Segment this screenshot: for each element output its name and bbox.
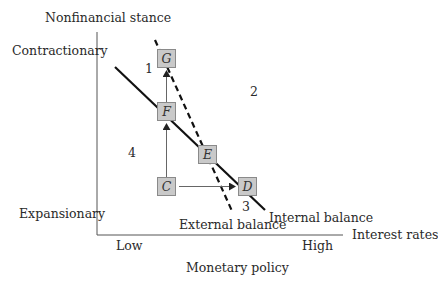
- point-d-box: D: [238, 177, 257, 196]
- point-g-box: G: [157, 49, 176, 68]
- y-axis-bottom-label: Expansionary: [19, 208, 105, 221]
- x-axis-low-label: Low: [116, 240, 143, 253]
- region-3-label: 3: [242, 201, 250, 214]
- region-4-label: 4: [128, 147, 136, 160]
- x-axis-end-label: Interest rates: [352, 229, 438, 242]
- point-f-box: F: [157, 102, 176, 121]
- y-axis-title: Nonfinancial stance: [45, 12, 171, 25]
- x-axis-title: Monetary policy: [186, 262, 289, 275]
- point-e-box: E: [198, 145, 217, 164]
- region-1-label: 1: [145, 63, 153, 76]
- y-axis-top-label: Contractionary: [12, 45, 108, 58]
- external-balance-label: External balance: [179, 219, 286, 232]
- x-axis-high-label: High: [302, 240, 333, 253]
- point-c-box: C: [157, 177, 176, 196]
- region-2-label: 2: [250, 86, 258, 99]
